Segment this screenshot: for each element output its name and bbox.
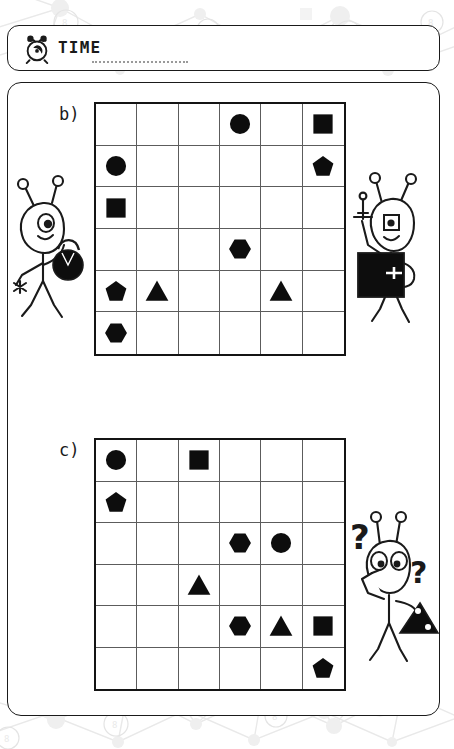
grid-cell-b-r6c5[interactable] — [261, 312, 302, 354]
alien-with-bag — [12, 173, 88, 321]
grid-cell-c-r6c6[interactable] — [303, 648, 344, 690]
grid-cell-b-r5c3[interactable] — [179, 271, 220, 313]
grid-cell-c-r1c3[interactable] — [179, 440, 220, 482]
grid-cell-b-r5c5[interactable] — [261, 271, 302, 313]
puzzle-c: c) — [94, 438, 346, 691]
grid-cell-b-r1c5[interactable] — [261, 104, 302, 146]
grid-cell-c-r1c5[interactable] — [261, 440, 302, 482]
grid-cell-b-r6c6[interactable] — [303, 312, 344, 354]
grid-cell-c-r4c2[interactable] — [137, 565, 178, 607]
grid-cell-b-r4c5[interactable] — [261, 229, 302, 271]
grid-cell-b-r4c1[interactable] — [96, 229, 137, 271]
grid-cell-b-r2c3[interactable] — [179, 146, 220, 188]
grid-cell-b-r5c1[interactable] — [96, 271, 137, 313]
grid-cell-b-r3c6[interactable] — [303, 187, 344, 229]
grid-cell-c-r5c3[interactable] — [179, 606, 220, 648]
triangle-shape — [185, 571, 213, 599]
grid-cell-b-r2c6[interactable] — [303, 146, 344, 188]
black-triangle-prop — [400, 603, 438, 633]
grid-cell-c-r2c6[interactable] — [303, 482, 344, 524]
grid-cell-c-r6c2[interactable] — [137, 648, 178, 690]
grid-cell-c-r1c4[interactable] — [220, 440, 261, 482]
puzzle-c-grid[interactable] — [94, 438, 346, 691]
grid-cell-c-r3c2[interactable] — [137, 523, 178, 565]
grid-cell-c-r6c1[interactable] — [96, 648, 137, 690]
grid-cell-b-r4c4[interactable] — [220, 229, 261, 271]
grid-cell-c-r1c6[interactable] — [303, 440, 344, 482]
grid-cell-b-r1c2[interactable] — [137, 104, 178, 146]
grid-cell-b-r5c4[interactable] — [220, 271, 261, 313]
hexagon-shape — [226, 235, 254, 263]
worksheet-panel: b) c) — [7, 82, 440, 716]
grid-cell-c-r5c1[interactable] — [96, 606, 137, 648]
grid-cell-b-r5c6[interactable] — [303, 271, 344, 313]
grid-cell-c-r5c4[interactable] — [220, 606, 261, 648]
pentagon-shape — [309, 152, 337, 180]
alien-confused: ? ? — [344, 507, 446, 663]
grid-cell-b-r6c2[interactable] — [137, 312, 178, 354]
grid-cell-b-r4c3[interactable] — [179, 229, 220, 271]
grid-cell-c-r6c4[interactable] — [220, 648, 261, 690]
grid-cell-b-r1c4[interactable] — [220, 104, 261, 146]
grid-cell-b-r1c6[interactable] — [303, 104, 344, 146]
grid-cell-c-r3c4[interactable] — [220, 523, 261, 565]
time-panel: TIME — [7, 25, 440, 71]
grid-cell-b-r3c5[interactable] — [261, 187, 302, 229]
square-shape — [185, 446, 213, 474]
grid-cell-b-r4c2[interactable] — [137, 229, 178, 271]
grid-cell-b-r6c4[interactable] — [220, 312, 261, 354]
grid-cell-c-r2c3[interactable] — [179, 482, 220, 524]
grid-cell-b-r2c4[interactable] — [220, 146, 261, 188]
grid-cell-b-r2c1[interactable] — [96, 146, 137, 188]
grid-cell-b-r2c5[interactable] — [261, 146, 302, 188]
circle-shape — [102, 446, 130, 474]
grid-cell-c-r6c3[interactable] — [179, 648, 220, 690]
grid-cell-c-r4c4[interactable] — [220, 565, 261, 607]
square-shape — [102, 194, 130, 222]
grid-cell-c-r3c3[interactable] — [179, 523, 220, 565]
grid-cell-c-r5c6[interactable] — [303, 606, 344, 648]
svg-text:?: ? — [350, 517, 370, 557]
puzzle-c-label: c) — [59, 440, 79, 460]
triangle-shape — [143, 277, 171, 305]
grid-cell-c-r6c5[interactable] — [261, 648, 302, 690]
grid-cell-b-r4c6[interactable] — [303, 229, 344, 271]
grid-cell-c-r2c1[interactable] — [96, 482, 137, 524]
circle-shape — [226, 110, 254, 138]
grid-cell-c-r1c1[interactable] — [96, 440, 137, 482]
grid-cell-c-r3c5[interactable] — [261, 523, 302, 565]
grid-cell-b-r3c3[interactable] — [179, 187, 220, 229]
grid-cell-c-r1c2[interactable] — [137, 440, 178, 482]
grid-cell-c-r3c1[interactable] — [96, 523, 137, 565]
svg-text:8: 8 — [112, 720, 117, 730]
grid-cell-b-r6c3[interactable] — [179, 312, 220, 354]
time-answer-line[interactable] — [92, 59, 188, 63]
grid-cell-c-r3c6[interactable] — [303, 523, 344, 565]
grid-cell-c-r2c5[interactable] — [261, 482, 302, 524]
grid-cell-b-r3c2[interactable] — [137, 187, 178, 229]
pentagon-shape — [309, 654, 337, 682]
time-label: TIME — [58, 38, 101, 57]
grid-cell-b-r3c1[interactable] — [96, 187, 137, 229]
grid-cell-c-r2c4[interactable] — [220, 482, 261, 524]
square-shape — [309, 612, 337, 640]
grid-cell-b-r2c2[interactable] — [137, 146, 178, 188]
grid-cell-b-r3c4[interactable] — [220, 187, 261, 229]
grid-cell-b-r5c2[interactable] — [137, 271, 178, 313]
grid-cell-c-r4c6[interactable] — [303, 565, 344, 607]
grid-cell-c-r4c1[interactable] — [96, 565, 137, 607]
grid-cell-c-r5c5[interactable] — [261, 606, 302, 648]
grid-cell-b-r6c1[interactable] — [96, 312, 137, 354]
grid-cell-c-r4c5[interactable] — [261, 565, 302, 607]
grid-cell-c-r4c3[interactable] — [179, 565, 220, 607]
grid-cell-c-r2c2[interactable] — [137, 482, 178, 524]
puzzle-b-label: b) — [59, 104, 79, 124]
puzzle-b: b) — [94, 102, 346, 356]
grid-cell-c-r5c2[interactable] — [137, 606, 178, 648]
square-shape — [309, 110, 337, 138]
grid-cell-b-r1c3[interactable] — [179, 104, 220, 146]
grid-cell-b-r1c1[interactable] — [96, 104, 137, 146]
puzzle-b-grid[interactable] — [94, 102, 346, 356]
black-tablet-prop — [358, 253, 404, 297]
svg-text:8: 8 — [4, 734, 9, 744]
